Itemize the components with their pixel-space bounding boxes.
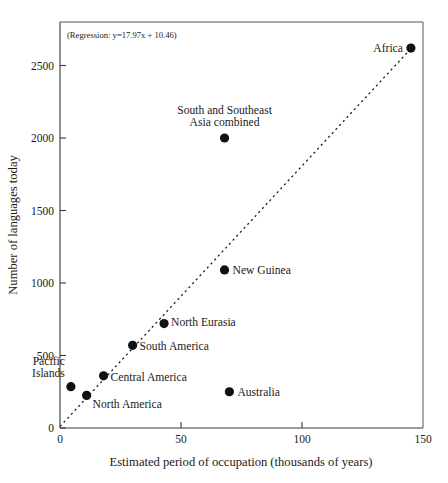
regression-annotation: (Regression: y=17.97x + 10.46): [67, 30, 177, 40]
data-point-label: South and SoutheastAsia combined: [177, 104, 272, 129]
y-tick-label: 1000: [31, 277, 54, 289]
data-point-label-line: Islands: [32, 367, 65, 380]
data-point-label: North America: [93, 398, 162, 411]
plot-frame: [60, 22, 423, 428]
data-point[interactable]: [128, 341, 137, 350]
data-point[interactable]: [220, 265, 229, 274]
data-point-label: PacificIslands: [32, 355, 65, 380]
data-point-label-line: Central America: [111, 371, 187, 384]
y-tick-label: 0: [48, 422, 54, 434]
x-axis-title: Estimated period of occupation (thousand…: [110, 455, 373, 469]
x-tick-label: 100: [293, 433, 311, 445]
figure-container: 05001000150020002500 050100150 PacificIs…: [0, 0, 448, 483]
data-point[interactable]: [406, 44, 415, 53]
y-tick-label: 1500: [31, 205, 54, 217]
data-point-label: Africa: [373, 42, 403, 55]
x-tick-label: 150: [414, 433, 432, 445]
data-point[interactable]: [82, 391, 91, 400]
data-point-label: New Guinea: [233, 264, 291, 277]
data-point-label-line: Asia combined: [190, 116, 260, 129]
x-tick-label: 0: [57, 433, 63, 445]
y-axis-title: Number of languages today: [6, 155, 20, 295]
data-point-label: Central America: [111, 371, 187, 384]
data-point[interactable]: [159, 319, 168, 328]
data-points-group: PacificIslandsNorth AmericaCentral Ameri…: [32, 42, 415, 411]
x-axis-ticks: 050100150: [57, 422, 432, 445]
data-point[interactable]: [99, 371, 108, 380]
data-point-label-line: North Eurasia: [171, 316, 236, 329]
data-point-label-line: Africa: [373, 42, 403, 55]
data-point[interactable]: [220, 133, 229, 142]
data-point[interactable]: [66, 382, 75, 391]
data-point-label: South America: [140, 340, 209, 353]
data-point-label-line: South America: [140, 340, 209, 353]
data-point-label: North Eurasia: [171, 316, 236, 329]
data-point-label-line: North America: [93, 398, 162, 411]
scatter-plot: 05001000150020002500 050100150 PacificIs…: [0, 0, 448, 483]
y-tick-label: 2000: [31, 132, 54, 144]
frame-border: [60, 22, 423, 428]
data-point-label-line: Australia: [237, 386, 280, 399]
data-point[interactable]: [225, 387, 234, 396]
data-point-label-line: New Guinea: [233, 264, 291, 277]
data-point-label: Australia: [237, 386, 280, 399]
y-tick-label: 2500: [31, 60, 54, 72]
x-tick-label: 50: [175, 433, 187, 445]
